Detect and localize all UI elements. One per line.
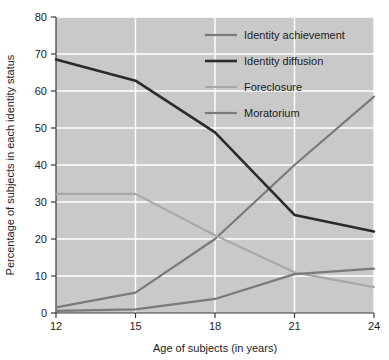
y-tick-label: 50 [35,122,47,134]
y-tick-label: 40 [35,159,47,171]
y-tick-label: 20 [35,233,47,245]
x-tick-label: 15 [129,320,141,332]
legend-label-2: Foreclosure [244,81,302,93]
chart-container: 01020304050607080 1215182124 Identity ac… [0,0,389,360]
legend-label-1: Identity diffusion [244,55,323,67]
x-tick-label: 21 [288,320,300,332]
x-tick-label: 12 [50,320,62,332]
x-tick-label: 24 [368,320,380,332]
y-tick-label: 0 [41,307,47,319]
y-tick-label: 80 [35,11,47,23]
y-tick-label: 10 [35,270,47,282]
legend-label-3: Moratorium [244,107,300,119]
y-tick-label: 70 [35,48,47,60]
x-tick-label: 18 [209,320,221,332]
line-chart: 01020304050607080 1215182124 Identity ac… [0,0,389,360]
x-axis-title: Age of subjects (in years) [153,342,277,354]
y-tick-label: 60 [35,85,47,97]
legend-label-0: Identity achievement [244,29,345,41]
y-tick-label: 30 [35,196,47,208]
y-axis-title: Percentage of subjects in each identity … [4,54,16,275]
